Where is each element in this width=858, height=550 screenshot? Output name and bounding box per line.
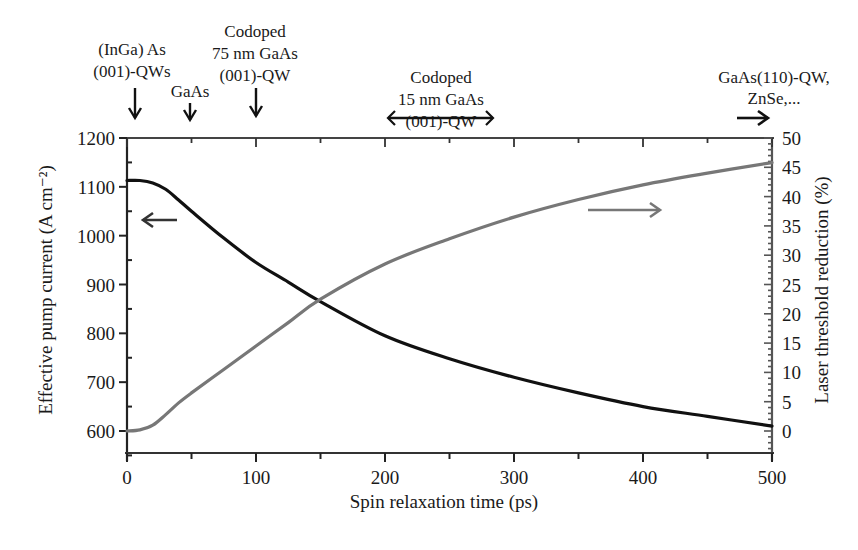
annotation-ingaas: (001)-QWs — [93, 62, 170, 81]
annotation-gaas110-znse: GaAs(110)-QW, — [718, 68, 830, 87]
x-tick-label: 500 — [758, 467, 787, 488]
left-y-axis-ticks: 600700800900100011001200 — [77, 128, 132, 455]
down-arrow-icon — [184, 103, 196, 120]
annotation-codoped-75nm: Codoped — [224, 22, 286, 41]
y-tick-label: 800 — [87, 323, 116, 344]
y2-tick-label: 15 — [782, 333, 801, 354]
y-tick-label: 1200 — [77, 128, 115, 149]
annotations: (InGa) As(001)-QWsGaAsCodoped75 nm GaAs(… — [93, 22, 830, 131]
y2-tick-label: 10 — [782, 362, 801, 383]
x-tick-label: 400 — [629, 467, 658, 488]
y2-tick-label: 20 — [782, 304, 801, 325]
chart: 0100200300400500600700800900100011001200… — [0, 0, 858, 550]
y2-axis-title: Laser threshold reduction (%) — [811, 176, 833, 403]
y2-tick-label: 45 — [782, 157, 801, 178]
y-tick-label: 900 — [87, 275, 116, 296]
down-arrow-icon — [250, 88, 262, 116]
right-y-axis-ticks: 05101520253035404550 — [764, 128, 801, 449]
y2-tick-label: 35 — [782, 216, 801, 237]
annotation-codoped-75nm: (001)-QW — [220, 66, 292, 85]
annotation-gaas: GaAs — [171, 82, 210, 101]
y-tick-label: 700 — [87, 372, 116, 393]
y2-tick-label: 50 — [782, 128, 801, 149]
threshold-reduction-curve — [127, 163, 772, 431]
right-arrow-icon — [588, 203, 660, 217]
x-axis-ticks: 0100200300400500 — [122, 138, 786, 488]
y-tick-label: 1100 — [78, 177, 115, 198]
annotation-codoped-15nm: Codoped — [410, 68, 472, 87]
x-tick-label: 200 — [371, 467, 400, 488]
x-tick-label: 0 — [122, 467, 132, 488]
y-tick-label: 600 — [87, 421, 116, 442]
pump-current-curve — [127, 180, 772, 426]
annotation-gaas110-znse: ZnSe,... — [748, 89, 801, 108]
annotation-codoped-75nm: 75 nm GaAs — [212, 44, 298, 63]
annotation-codoped-15nm: (001)-QW — [406, 112, 478, 131]
right-arrow-icon — [737, 111, 768, 125]
y2-tick-label: 30 — [782, 245, 801, 266]
annotation-ingaas: (InGa) As — [98, 40, 166, 59]
y-axis-title: Effective pump current (A cm⁻²) — [35, 165, 57, 415]
y-tick-label: 1000 — [77, 226, 115, 247]
y2-tick-label: 5 — [782, 392, 792, 413]
annotation-codoped-15nm: 15 nm GaAs — [398, 90, 484, 109]
y2-tick-label: 40 — [782, 187, 801, 208]
left-arrow-icon — [143, 213, 177, 227]
x-tick-label: 100 — [242, 467, 271, 488]
y2-tick-label: 0 — [782, 421, 792, 442]
down-arrow-icon — [129, 88, 141, 118]
x-tick-label: 300 — [500, 467, 529, 488]
y2-tick-label: 25 — [782, 275, 801, 296]
x-axis-title: Spin relaxation time (ps) — [350, 491, 538, 513]
